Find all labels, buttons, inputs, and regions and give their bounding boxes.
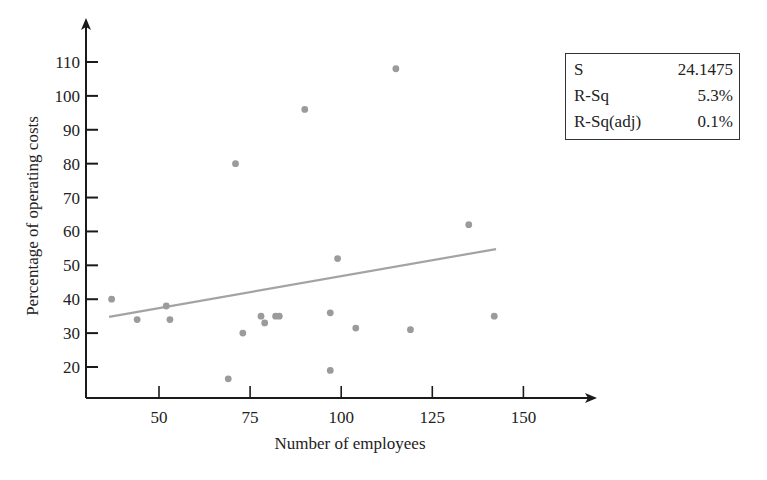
stats-value: 24.1475 [678, 57, 733, 83]
data-point [392, 65, 399, 72]
data-point [491, 313, 498, 320]
data-point [258, 313, 265, 320]
y-axis-title: Percentage of operating costs [23, 116, 42, 316]
stats-label: R-Sq [574, 83, 609, 109]
stats-label: S [574, 57, 583, 83]
data-point [232, 160, 239, 167]
stats-row-r-sq: R-Sq 5.3% [574, 83, 733, 109]
x-axis-ticks: 5075100125150 [151, 386, 537, 427]
y-tick-label: 70 [63, 189, 80, 208]
data-point [167, 316, 174, 323]
data-point [465, 221, 472, 228]
x-tick-label: 125 [420, 408, 446, 427]
y-tick-label: 80 [63, 155, 80, 174]
x-tick-label: 150 [511, 408, 537, 427]
data-point [276, 313, 283, 320]
x-axis-title: Number of employees [274, 434, 425, 453]
data-point [327, 367, 334, 374]
data-point [327, 309, 334, 316]
x-tick-label: 100 [328, 408, 354, 427]
stats-value: 0.1% [698, 109, 733, 135]
x-tick-label: 75 [242, 408, 259, 427]
y-tick-label: 50 [63, 256, 80, 275]
data-point [261, 320, 268, 327]
y-tick-label: 100 [55, 87, 81, 106]
y-tick-label: 110 [55, 53, 80, 72]
data-point [407, 326, 414, 333]
x-tick-label: 50 [151, 408, 168, 427]
y-axis-ticks: 2030405060708090100110 [55, 53, 99, 377]
stats-row-r-sq-adj: R-Sq(adj) 0.1% [574, 109, 733, 135]
data-point [334, 255, 341, 262]
data-point [108, 296, 115, 303]
y-tick-label: 90 [63, 121, 80, 140]
y-tick-label: 30 [63, 324, 80, 343]
data-point [352, 325, 359, 332]
data-point [134, 316, 141, 323]
y-tick-label: 20 [63, 358, 80, 377]
y-tick-label: 40 [63, 290, 80, 309]
data-points [108, 65, 497, 382]
stats-label: R-Sq(adj) [574, 109, 641, 135]
data-point [239, 330, 246, 337]
stats-row-s: S 24.1475 [574, 57, 733, 83]
data-point [301, 106, 308, 113]
data-point [225, 375, 232, 382]
y-tick-label: 60 [63, 222, 80, 241]
data-point [163, 303, 170, 310]
regression-stats-box: S 24.1475 R-Sq 5.3% R-Sq(adj) 0.1% [565, 53, 740, 140]
stats-value: 5.3% [698, 83, 733, 109]
